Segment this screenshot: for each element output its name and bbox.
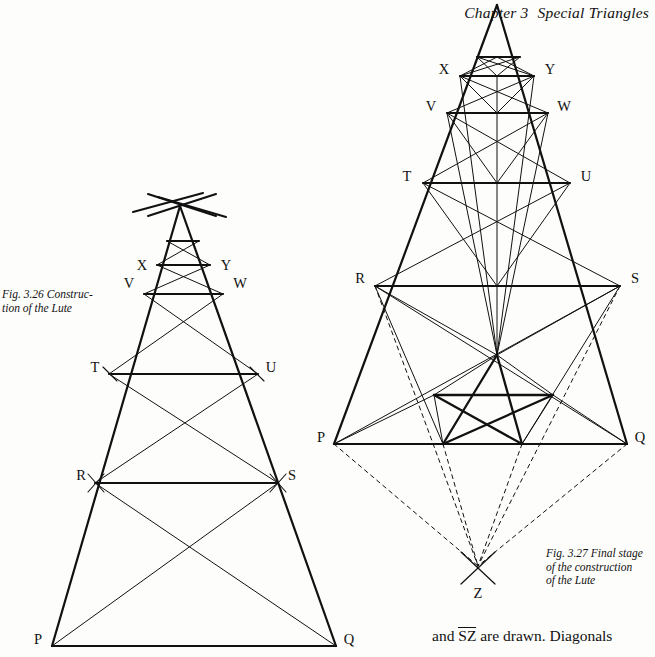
vertex-label-w-right: W	[557, 98, 571, 114]
pentagram-right	[434, 355, 553, 444]
apex-construction-marks-left	[133, 193, 226, 217]
caption-line: of the Lute	[546, 574, 643, 588]
running-head-chapter: Chapter 3	[464, 4, 528, 21]
figure-3-26	[52, 193, 336, 646]
running-head-title: Special Triangles	[538, 4, 649, 21]
vertex-label-z-right: Z	[474, 585, 483, 601]
vertex-label-x-right: X	[439, 61, 450, 77]
vertex-label-t-right: T	[403, 168, 412, 184]
figure-caption-3-27: Fig. 3.27 Final stage of the constructio…	[546, 547, 643, 588]
vertex-label-t-left: T	[91, 359, 100, 375]
body-text-after: are drawn. Diagonals	[476, 627, 612, 644]
vertex-label-v-right: V	[426, 98, 437, 114]
running-head: Chapter 3Special Triangles	[464, 4, 649, 22]
caption-line: Fig. 3.27 Final stage	[546, 547, 643, 561]
vertex-label-q-left: Q	[344, 631, 355, 647]
vertex-label-p-left: P	[34, 631, 42, 647]
z-cross-mark	[461, 552, 495, 584]
body-text-before: and	[432, 627, 458, 644]
caption-line: tion of the Lute	[2, 302, 93, 316]
body-text-fragment: and SZ are drawn. Diagonals	[432, 627, 612, 645]
pencil-lines-right	[447, 76, 548, 355]
vertex-label-y-right: Y	[545, 61, 556, 77]
figure-caption-3-26: Fig. 3.26 Construc- tion of the Lute	[2, 288, 93, 315]
figure-3-27	[334, 5, 627, 584]
rungs-left	[95, 241, 278, 483]
vertex-labels-right: X Y V W T U R S P Q Z	[317, 61, 646, 601]
vertex-label-u-right: U	[581, 168, 592, 184]
diagonals-left	[52, 241, 336, 646]
vertex-label-r-left: R	[76, 467, 86, 483]
page-canvas: X Y V W T U R S P Q X Y V W T U R S P Q …	[0, 0, 655, 657]
vertex-label-r-right: R	[355, 270, 365, 286]
vertex-label-v-left: V	[124, 275, 135, 291]
segment-notation-sz: SZ	[458, 627, 476, 644]
tick-marks-left	[88, 367, 286, 492]
vertex-label-w-left: W	[233, 275, 247, 291]
caption-line: of the construction	[546, 561, 643, 575]
vertex-label-q-right: Q	[635, 429, 646, 445]
upper-lattice-right	[334, 57, 627, 444]
triangle-outline-right	[334, 5, 627, 444]
caption-line: Fig. 3.26 Construc-	[2, 288, 93, 302]
vertex-label-x-left: X	[137, 257, 148, 273]
vertex-label-y-left: Y	[221, 257, 232, 273]
vertex-label-p-right: P	[317, 429, 325, 445]
vertex-label-s-right: S	[631, 270, 639, 286]
vertex-label-s-left: S	[288, 467, 296, 483]
vertex-labels-left: X Y V W T U R S P Q	[34, 257, 355, 647]
vertex-label-u-left: U	[266, 359, 277, 375]
